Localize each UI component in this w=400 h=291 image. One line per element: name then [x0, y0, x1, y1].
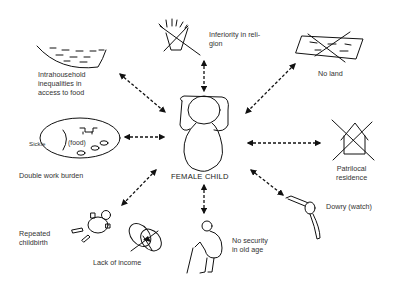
- label-childbirth: Repeated childbirth: [19, 229, 50, 247]
- label-sickle: Sickle: [29, 139, 46, 148]
- crossed-out-coin-icon: [125, 219, 166, 255]
- diagram-canvas: [0, 0, 400, 291]
- label-land: No land: [318, 69, 343, 78]
- label-food: Intrahousehold inequalities in access to…: [38, 70, 86, 97]
- female-child-figure-icon: [180, 96, 228, 171]
- arrow-childbirth: [122, 170, 156, 205]
- arrow-food: [120, 74, 165, 112]
- elderly-person-icon: [187, 221, 222, 273]
- crossed-out-house-icon: [332, 120, 374, 160]
- center-label: FEMALE CHILD: [171, 172, 229, 181]
- empty-bowl-icon: [37, 46, 106, 68]
- crossed-out-shrine-icon: [159, 19, 200, 55]
- label-religion: Inferiority in reli- gion: [209, 30, 260, 48]
- arrow-dowry: [251, 170, 283, 195]
- label-residence: Patrilocal residence: [336, 164, 367, 182]
- label-dowry: Dowry (watch): [326, 202, 372, 211]
- label-food-inner: (food): [68, 138, 86, 147]
- watch-icon: [286, 196, 320, 239]
- arrow-land: [246, 64, 295, 113]
- baby-icon: [72, 211, 111, 243]
- label-oldage: No security in old age: [232, 236, 268, 254]
- label-income: Lack of income: [93, 258, 141, 267]
- label-work: Double work burden: [19, 171, 83, 180]
- crossed-out-field-icon: [296, 32, 363, 62]
